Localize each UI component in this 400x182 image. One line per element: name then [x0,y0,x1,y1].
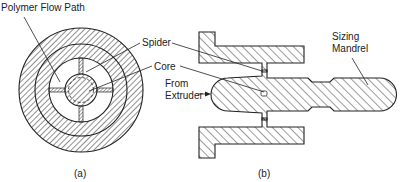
spider-arm-left [49,88,65,92]
label-spider: Spider [142,37,172,48]
caption-b: (b) [258,168,270,179]
caption-a: (a) [74,168,86,179]
label-polymer-flow-path: Polymer Flow Path [1,2,85,13]
spider-arm-right [97,88,113,92]
spider-arm-top [79,58,83,74]
label-sizing-mandrel-line1: Sizing [332,31,359,42]
panel-a-cross-section [19,28,143,152]
figure-canvas: Polymer Flow Path Spider Core (a) From E… [0,0,400,182]
upper-die-body [199,32,304,72]
from-extruder-arrowhead [205,92,211,97]
spider-arm-bottom [79,106,83,122]
label-from-extruder-line1: From [165,78,188,89]
label-sizing-mandrel-line2: Mandrel [332,43,368,54]
mandrel [211,70,397,120]
label-core: Core [154,61,176,72]
label-from-extruder-line2: Extruder [165,90,203,101]
lower-die-body [199,118,304,158]
